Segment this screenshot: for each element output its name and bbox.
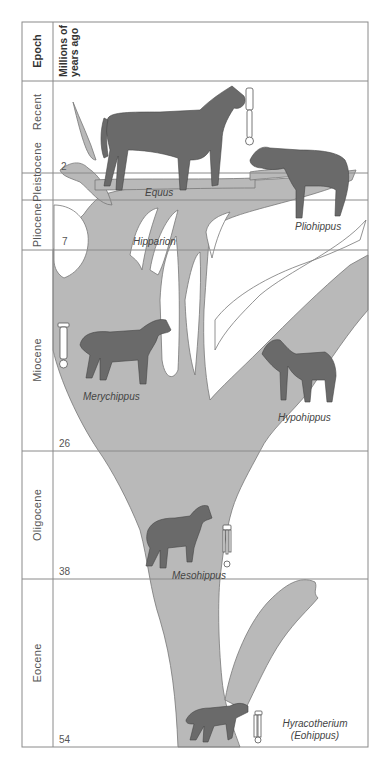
label-hyracotherium: Hyracotherium (Eohippus) [275,718,355,742]
label-hyracotherium-name: Hyracotherium [275,718,355,730]
mya-mark-7: 7 [62,236,68,247]
epoch-pliocene: Pliocene [31,203,43,248]
label-merychippus: Merychippus [83,391,140,402]
mya-mark-2: 2 [61,161,67,172]
label-hipparion: Hipparion [133,236,176,247]
epoch-recent: Recent [31,94,43,131]
header-millions-of-years-ago: Millions of years ago [58,25,80,77]
label-mesohippus: Mesohippus [172,570,226,581]
mya-mark-38: 38 [59,566,70,577]
foot-bone-hyracotherium [254,711,262,743]
evolution-tree [53,102,368,747]
horse-equus [101,86,245,190]
foot-bone-mesohippus [223,525,231,567]
label-hypohippus: Hypohippus [278,412,331,423]
label-pliohippus: Pliohippus [295,221,341,232]
epoch-pleistocene: Pleistocene [31,142,43,202]
epoch-oligocene: Oligocene [31,489,43,541]
foot-bone-equus [246,88,254,145]
mya-mark-54: 54 [59,734,70,745]
label-eohippus-name: (Eohippus) [275,730,355,742]
mya-mark-26: 26 [59,438,70,449]
header-mya-line2: years ago [69,25,80,77]
horse-evolution-diagram [0,0,381,763]
epoch-eocene: Eocene [31,643,43,682]
label-equus: Equus [145,187,173,198]
header-epoch: Epoch [31,34,43,68]
epoch-miocene: Miocene [31,338,43,382]
